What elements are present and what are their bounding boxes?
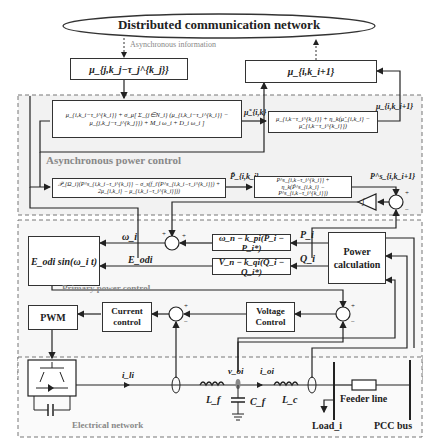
pcc-bus-label: PCC bus	[374, 420, 412, 431]
voltage-control-line-2: Control	[256, 317, 286, 328]
network-title: Distributed communication network	[64, 17, 374, 33]
i-oi-signal: i_oi	[260, 366, 274, 376]
sine-block: E_odi sin(ω_i t)	[28, 236, 100, 286]
cf-label: C_f	[250, 396, 265, 407]
p-average-text: P^s_{i,k−τ_i^{k_i}} + η_k(P̃^s_{i,k_i} −…	[257, 177, 349, 197]
pwm-text: PWM	[40, 312, 66, 323]
p-signal: P_i	[300, 229, 314, 240]
converter-icon	[28, 360, 76, 396]
p-projection-block: 𝒫_{Ω_i}(P^s_{i,k_i−τ_i^{k_i}} − σ_s(f_i′…	[52, 178, 226, 198]
feeder-line-label: Feeder line	[340, 393, 387, 404]
voltage-sum-plus: +	[351, 302, 355, 310]
frequency-droop-block: ω_n − k_pi(P_i − P_i*)	[212, 234, 291, 251]
i-li-signal: i_li	[122, 370, 134, 380]
current-control-line-2: control	[113, 317, 140, 328]
p-average-block: P^s_{i,k−τ_i^{k_i}} + η_k(P̃^s_{i,k_i} −…	[254, 176, 352, 198]
async-power-control-label: Asynchronous power control	[46, 154, 181, 166]
q-signal: Q_i	[300, 253, 315, 264]
voltage-droop-block: V_n − k_qi(Q_i − Q_i*)	[212, 258, 291, 275]
primary-sum-sign-top: +	[162, 230, 166, 238]
voltage-control-block: Voltage Control	[246, 302, 295, 332]
current-control-block: Current control	[102, 302, 152, 332]
power-calculation-block: Power calculation	[328, 232, 386, 284]
async-sum-sign-plus: +	[405, 189, 409, 197]
lf-label: L_f	[206, 394, 220, 405]
sine-text: E_odi sin(ω_i t)	[31, 256, 97, 267]
lc-label: L_c	[282, 394, 298, 405]
received-mu-block: μ_{j,k_j−τ_j^{k_j}}	[70, 58, 188, 80]
sent-mu-block: μ_{i,k_i+1}	[245, 60, 377, 83]
voltage-sum-minus: −	[351, 318, 355, 326]
current-control-line-1: Current	[111, 306, 142, 317]
mu-tilde-signal: μ̃_{i,k}	[244, 108, 266, 117]
voltage-droop-text: V_n − k_qi(Q_i − Q_i*)	[213, 257, 290, 277]
electrical-network-label: Electrical network	[72, 420, 143, 430]
load-label: Load_i	[312, 420, 342, 431]
async-info-label: Asynchronous information	[130, 40, 216, 49]
integrator-icon: ∫	[362, 197, 364, 206]
power-calc-line-1: Power	[343, 245, 370, 258]
p-out-signal: P^s_{i,k_i+1}	[370, 172, 415, 181]
p-projection-text: 𝒫_{Ω_i}(P^s_{i,k_i−τ_i^{k_i}} − σ_s(f_i′…	[55, 181, 223, 194]
sent-mu-text: μ_{i,k_i+1}	[288, 66, 334, 77]
current-sum-minus: −	[184, 318, 188, 326]
voltage-control-line-1: Voltage	[256, 306, 285, 317]
v-oi-signal: v_oi	[228, 366, 244, 376]
e-odi-signal: E_odi	[128, 254, 152, 265]
mu-out-signal: μ_{i,k_i+1}	[376, 102, 413, 111]
pwm-block: PWM	[28, 305, 78, 330]
current-sum-plus: +	[184, 302, 188, 310]
omega-signal: ω_i	[122, 231, 137, 242]
dc-capacitor-icon	[34, 400, 70, 418]
mu-average-text: μ_{i,k−τ_i^{k_i}} + η_k(μ̃_{i,k_i} − μ̃_…	[271, 115, 375, 129]
primary-power-control-label: Primary power control	[62, 283, 150, 293]
async-sum-sign-minus: −	[405, 206, 409, 214]
mu-update-block: μ_{i,k_i−τ_i^{k_i}} + σ_μ[ Σ_{j∈N_i} (μ_…	[52, 100, 242, 138]
frequency-droop-text: ω_n − k_pi(P_i − P_i*)	[213, 233, 290, 253]
mu-update-text: μ_{i,k_i−τ_i^{k_i}} + σ_μ[ Σ_{j∈N_i} (μ_…	[55, 111, 239, 127]
mu-average-block: μ_{i,k−τ_i^{k_i}} + η_k(μ̃_{i,k_i} − μ̃_…	[268, 111, 378, 133]
primary-sum-sign-right: +	[182, 232, 186, 240]
power-calc-line-2: calculation	[334, 258, 381, 271]
received-mu-text: μ_{j,k_j−τ_j^{k_j}}	[89, 64, 168, 75]
